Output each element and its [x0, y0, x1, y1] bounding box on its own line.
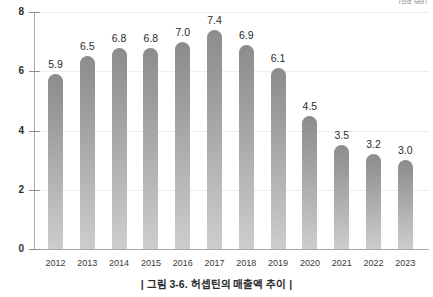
bar: [112, 48, 127, 249]
x-axis-tick-label: 2013: [70, 259, 104, 268]
bar: [239, 45, 254, 249]
x-axis-tick-label: 2017: [198, 259, 232, 268]
bar-value-label: 5.9: [41, 59, 71, 70]
y-axis-tick-label: 8: [0, 7, 24, 17]
x-axis-tick-label: 2015: [134, 259, 168, 268]
y-axis-tick-label: 2: [0, 185, 24, 195]
bar: [80, 56, 95, 249]
x-axis-line: [34, 249, 429, 250]
bar-value-label: 6.9: [231, 30, 261, 41]
x-axis-tick-label: 2022: [357, 259, 391, 268]
bar-value-label: 7.4: [200, 15, 230, 26]
x-axis-tick-label: 2020: [293, 259, 327, 268]
bar: [207, 30, 222, 249]
bar-value-label: 3.5: [327, 130, 357, 141]
bar-value-label: 3.0: [390, 145, 420, 156]
bar: [334, 145, 349, 249]
bar-value-label: 7.0: [168, 27, 198, 38]
y-axis-tick-label: 0: [0, 244, 24, 254]
gridline: [34, 12, 429, 13]
y-axis-tick-label: 6: [0, 66, 24, 76]
bar: [48, 74, 63, 249]
x-axis-tick-label: 2012: [39, 259, 73, 268]
bar-value-label: 6.1: [263, 53, 293, 64]
x-axis-tick-label: 2014: [102, 259, 136, 268]
bar: [366, 154, 381, 249]
figure-container: (십억 달러) 02468 5.96.56.86.87.07.46.96.14.…: [0, 0, 433, 297]
y-axis-tick-mark: [29, 12, 40, 13]
x-axis-tick-label: 2021: [325, 259, 359, 268]
x-axis-tick-label: 2016: [166, 259, 200, 268]
y-axis-tick-mark: [29, 131, 40, 132]
y-axis-tick-mark: [29, 190, 40, 191]
y-axis-tick-label: 4: [0, 126, 24, 136]
chart-plot-area: 02468 5.96.56.86.87.07.46.96.14.53.53.23…: [0, 0, 433, 262]
x-axis-tick-label: 2018: [229, 259, 263, 268]
bar-value-label: 3.2: [359, 139, 389, 150]
bar-value-label: 4.5: [295, 101, 325, 112]
bar: [398, 160, 413, 249]
bar-value-label: 6.8: [136, 33, 166, 44]
bar: [271, 68, 286, 249]
bar-value-label: 6.5: [72, 41, 102, 52]
bar: [302, 116, 317, 249]
figure-caption: | 그림 3-6. 허셉틴의 매출액 추이 |: [0, 276, 433, 291]
y-axis-tick-mark: [29, 249, 40, 250]
x-axis-tick-label: 2019: [261, 259, 295, 268]
bar: [175, 42, 190, 249]
bar-value-label: 6.8: [104, 33, 134, 44]
y-axis-tick-mark: [29, 71, 40, 72]
bar: [143, 48, 158, 249]
x-axis-tick-label: 2023: [388, 259, 422, 268]
